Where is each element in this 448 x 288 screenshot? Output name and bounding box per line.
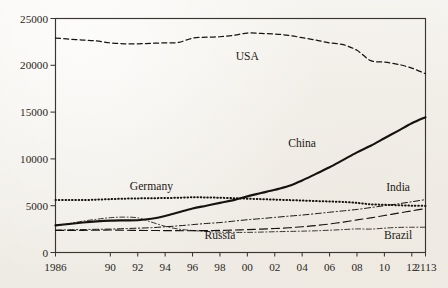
x-tick-label: 02 xyxy=(269,261,280,273)
x-tick-label: 90 xyxy=(105,261,117,273)
x-tick-label: 2113 xyxy=(415,261,437,273)
x-tick-label: 96 xyxy=(187,261,199,273)
x-tick-label: 1986 xyxy=(44,261,67,273)
x-tick-label: 98 xyxy=(214,261,226,273)
series-label-china: China xyxy=(288,137,316,150)
line-chart: 0500010000150002000025000 19869092949698… xyxy=(0,0,448,288)
series-label-russia: Russia xyxy=(204,229,235,242)
series-label-usa: USA xyxy=(236,50,260,63)
y-tick-label: 15000 xyxy=(20,106,48,118)
y-tick-label: 0 xyxy=(42,247,48,259)
x-tick-label: 92 xyxy=(132,261,143,273)
series-label-brazil: Brazil xyxy=(384,229,412,242)
x-tick-label: 08 xyxy=(351,261,363,273)
y-axis-tick-labels: 0500010000150002000025000 xyxy=(20,13,48,259)
series-line-china xyxy=(56,117,426,225)
y-tick-label: 20000 xyxy=(20,59,48,71)
y-tick-label: 5000 xyxy=(26,200,49,212)
series-line-germany xyxy=(56,197,426,206)
x-tick-label: 10 xyxy=(379,261,391,273)
y-tick-label: 10000 xyxy=(20,153,48,165)
series-label-germany: Germany xyxy=(130,180,173,193)
y-tick-label: 25000 xyxy=(20,13,48,25)
x-tick-label: 00 xyxy=(242,261,254,273)
x-axis-tick-labels: 19869092949698000204060810122113 xyxy=(44,261,437,273)
chart-canvas: 0500010000150002000025000 19869092949698… xyxy=(0,0,448,288)
data-series-group xyxy=(56,33,426,232)
x-tick-label: 04 xyxy=(297,261,309,273)
series-label-india: India xyxy=(386,181,410,194)
x-tick-label: 06 xyxy=(324,261,336,273)
x-tick-label: 94 xyxy=(160,261,172,273)
